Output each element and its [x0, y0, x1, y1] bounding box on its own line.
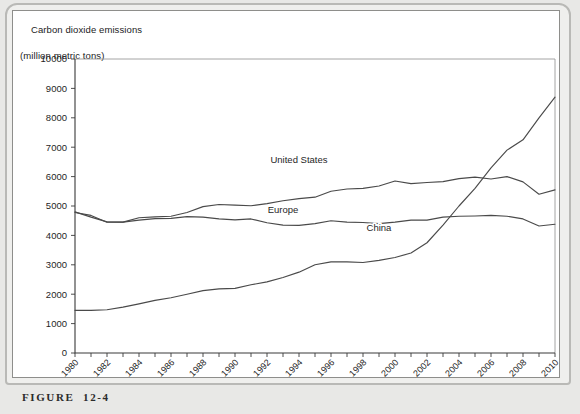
y-tick-label: 2000 [46, 289, 67, 300]
y-tick-label: 7000 [46, 142, 67, 153]
x-axis-ticks: 1980198219841986198819901992199419961998… [59, 353, 560, 379]
series-label-europe: Europe [268, 204, 299, 215]
x-tick-label: 2008 [507, 357, 528, 378]
y-tick-label: 3000 [46, 259, 67, 270]
plot-frame [75, 59, 555, 353]
y-tick-label: 0 [62, 347, 67, 358]
series-line-china [75, 97, 555, 310]
x-tick-label: 1980 [59, 357, 80, 378]
y-tick-label: 8000 [46, 112, 67, 123]
line-chart: 1000090008000700060005000400030002000100… [0, 0, 580, 414]
x-tick-label: 1992 [251, 357, 272, 378]
figure-page: Carbon dioxide emissions (million metric… [0, 0, 580, 414]
series-label-china: China [367, 222, 393, 233]
y-tick-label: 10000 [41, 53, 67, 64]
x-tick-label: 2004 [443, 357, 464, 378]
y-axis-ticks: 1000090008000700060005000400030002000100… [41, 53, 75, 358]
series-line-europe [75, 212, 555, 226]
x-tick-label: 2006 [475, 357, 496, 378]
x-tick-label: 1984 [123, 357, 144, 378]
x-tick-label: 1994 [283, 357, 304, 378]
x-tick-label: 1988 [187, 357, 208, 378]
x-tick-label: 1990 [219, 357, 240, 378]
y-tick-label: 6000 [46, 171, 67, 182]
x-tick-label: 2000 [379, 357, 400, 378]
y-tick-label: 1000 [46, 318, 67, 329]
x-tick-label: 1998 [347, 357, 368, 378]
x-tick-label: 1986 [155, 357, 176, 378]
y-tick-label: 9000 [46, 83, 67, 94]
y-tick-label: 4000 [46, 230, 67, 241]
figure-caption: FIGURE 12-4 [22, 391, 110, 403]
x-tick-label: 1996 [315, 357, 336, 378]
x-tick-label: 2010 [539, 357, 560, 378]
x-tick-label: 2002 [411, 357, 432, 378]
data-series-group [75, 97, 555, 310]
series-label-united-states: United States [270, 154, 327, 165]
x-tick-label: 1982 [91, 357, 112, 378]
y-tick-label: 5000 [46, 200, 67, 211]
